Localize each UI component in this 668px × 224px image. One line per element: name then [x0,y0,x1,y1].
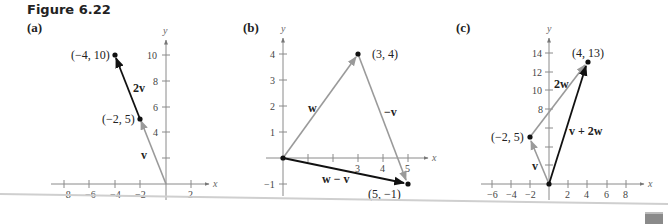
vector-label: 2v [133,81,145,95]
point-label: (4, 13) [572,46,604,60]
tick-label: 2 [270,101,275,112]
tick-label: −4 [110,189,121,200]
tick-label: 4 [584,189,589,200]
tick-label: 8 [153,76,158,87]
x-axis: −6 −4 −2 2 4 6 8 x [481,178,653,200]
y-axis-label: y [162,25,168,36]
vector-label: v + 2w [569,124,603,138]
tick-label: −6 [487,189,498,200]
point-label: (3, 4) [372,47,398,61]
tick-label: 6 [153,102,158,113]
vector-neg-v [358,54,406,180]
point-dot [405,181,410,186]
panel-c: −6 −4 −2 2 4 6 8 x 8 10 12 14 y [481,23,653,200]
x-axis: 3 4 5 x [266,152,437,174]
tick-label: 1 [270,127,275,138]
page-corner-icon [645,212,663,224]
vector-label: w [308,101,317,115]
point-dot [527,134,532,139]
point-label: (−2, 5) [491,130,524,144]
y-axis-label: y [546,23,552,34]
point-label: (−4, 10) [71,48,110,62]
tick-label: 4 [270,49,275,60]
point-dot [112,52,117,57]
point-dot [137,116,142,121]
tick-label: 4 [380,163,385,174]
tick-label: 3 [270,75,275,86]
tick-label: −1 [264,179,275,190]
tick-label: 4 [153,127,158,138]
y-axis: 4 6 8 10 y [147,25,170,200]
tick-label: 5 [405,163,410,174]
tick-label: 12 [532,67,542,78]
y-axis: −1 1 2 3 4 y [264,23,287,196]
point-dot [585,59,590,64]
origin-dot [546,181,551,186]
tick-label: 8 [538,104,543,115]
tick-label: 10 [147,50,157,61]
point-dot [355,51,360,56]
tick-label: 8 [623,189,628,200]
x-axis-label: x [647,178,653,189]
tick-label: 6 [604,189,609,200]
panel-a: −8 −6 −4 −2 2 x 4 6 8 10 y (−4, 10) (−2,… [51,25,218,200]
x-axis-label: x [431,152,437,163]
figure-canvas: −8 −6 −4 −2 2 x 4 6 8 10 y (−4, 10) (−2,… [0,0,668,224]
vector-w [283,57,356,158]
x-axis-label: x [212,178,218,189]
vector-label: v [141,148,147,162]
tick-label: 2 [565,189,570,200]
vector-label: v [532,159,538,173]
tick-label: −2 [525,189,536,200]
vector-label: −v [384,105,397,119]
tick-label: 14 [532,48,542,59]
vector-label: 2w [554,77,569,91]
y-axis-label: y [280,23,286,34]
tick-label: 2 [188,189,193,200]
panel-b: 3 4 5 x −1 1 2 3 4 y (3, 4) (5, −1) w [264,23,437,201]
origin-dot [280,155,285,160]
point-label: (−2, 5) [102,112,135,126]
tick-label: −4 [506,189,517,200]
vector-label: w − v [322,172,350,186]
tick-label: 10 [532,85,542,96]
tick-label: −2 [135,189,146,200]
